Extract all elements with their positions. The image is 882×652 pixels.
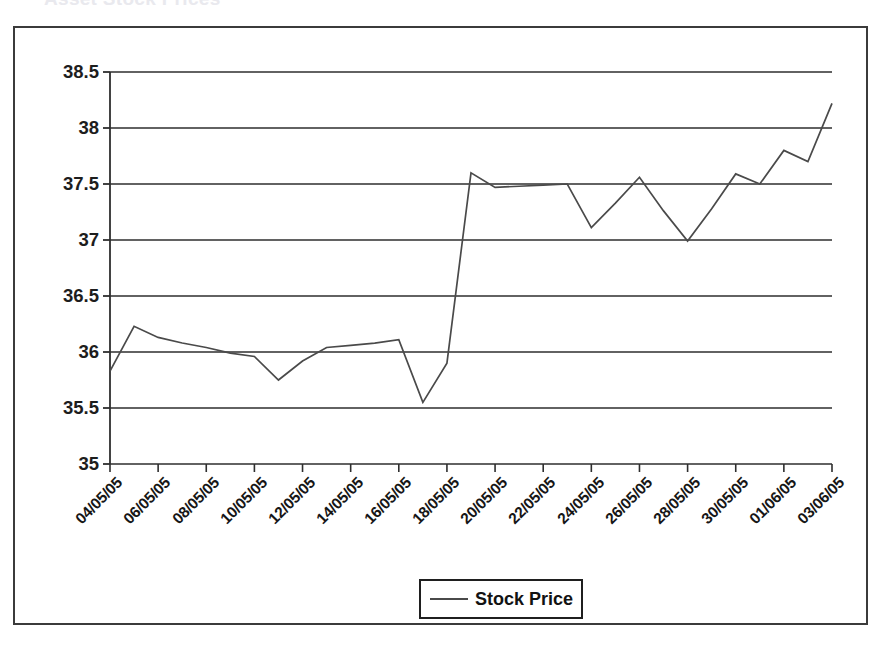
chart-frame: 3535.53636.53737.53838.5 04/05/0506/05/0… [13, 26, 868, 625]
legend-line-swatch [430, 598, 468, 600]
y-axis-tick-label: 35 [37, 454, 99, 474]
legend-label: Stock Price [475, 589, 573, 610]
page-title: Asset Stock Prices [44, 0, 464, 10]
legend: Stock Price [419, 579, 583, 619]
x-axis-ticks [110, 464, 832, 472]
y-axis-tick-label: 37 [37, 230, 99, 250]
y-axis-tick-label: 37.5 [37, 174, 99, 194]
y-axis-ticks [103, 72, 110, 464]
y-axis-tick-label: 36 [37, 342, 99, 362]
chart-page: Asset Stock Prices 3535.53636.53737.5383… [0, 0, 882, 652]
y-axis-tick-label: 38.5 [37, 62, 99, 82]
legend-item-stock-price: Stock Price [421, 581, 581, 617]
y-axis-tick-label: 38 [37, 118, 99, 138]
series-stock-price [110, 103, 832, 402]
y-axis-tick-label: 35.5 [37, 398, 99, 418]
gridlines [110, 72, 832, 464]
y-axis-tick-label: 36.5 [37, 286, 99, 306]
line-chart-plot [15, 28, 866, 623]
